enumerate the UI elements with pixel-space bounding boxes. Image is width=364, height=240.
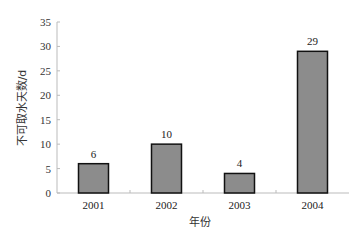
y-tick-label: 15 xyxy=(40,114,52,126)
y-tick-label: 5 xyxy=(46,163,52,175)
y-tick-label: 0 xyxy=(46,187,52,199)
y-tick-label: 30 xyxy=(40,40,52,52)
x-tick-label: 2004 xyxy=(302,199,325,211)
bar-2001 xyxy=(79,164,109,193)
x-axis-title: 年份 xyxy=(189,215,211,229)
y-axis-title: 不可取水天数/d xyxy=(16,70,29,147)
y-axis: 05101520253035 xyxy=(40,16,60,199)
x-tick-label: 2003 xyxy=(229,199,252,211)
bar-value-label: 10 xyxy=(161,128,173,140)
y-tick-label: 35 xyxy=(40,16,52,28)
bar-value-label: 4 xyxy=(237,157,243,169)
bar-2004 xyxy=(298,51,328,193)
y-tick-label: 10 xyxy=(40,138,52,150)
bars: 610429 xyxy=(79,35,328,193)
bar-chart: 05101520253035 2001200220032004 610429 不… xyxy=(0,0,364,240)
y-tick-label: 25 xyxy=(40,65,52,77)
x-tick-label: 2002 xyxy=(156,199,178,211)
y-tick-label: 20 xyxy=(40,89,52,101)
x-tick-label: 2001 xyxy=(83,199,105,211)
bar-2002 xyxy=(152,144,182,193)
bar-value-label: 6 xyxy=(91,148,97,160)
bar-value-label: 29 xyxy=(307,35,319,47)
bar-2003 xyxy=(225,173,255,193)
